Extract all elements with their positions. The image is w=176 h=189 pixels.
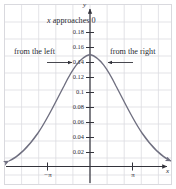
annotation-from-the-left: from the left	[14, 48, 55, 56]
y-tick-label-0.08: 0.08	[58, 104, 84, 110]
annotation-x-approaches-zero: x approaches 0	[47, 17, 96, 25]
annotation-from-the-right: from the right	[110, 48, 155, 56]
y-axis-label: y	[83, 2, 86, 9]
x-axis-label: x	[166, 168, 169, 175]
y-tick-label-0.04: 0.04	[58, 134, 84, 140]
x-tick-label-neg-pi: −π	[37, 172, 59, 179]
plot-border	[5, 5, 172, 185]
y-tick-label-0.16: 0.16	[58, 44, 84, 50]
y-tick-label-0.14: 0.14	[58, 59, 84, 65]
annotation-approaches-text: approaches 0	[51, 16, 96, 25]
y-tick-label-0.1: 0.1	[58, 89, 84, 95]
x-tick-label-pi: π	[122, 172, 144, 179]
y-tick-label-0.18: 0.18	[58, 29, 84, 35]
y-tick-label-0.12: 0.12	[58, 74, 84, 80]
y-tick-label-0.02: 0.02	[58, 149, 84, 155]
plot-canvas	[0, 0, 176, 189]
y-tick-label-0.06: 0.06	[58, 119, 84, 125]
chart-figure: x approaches 0 y x from the left from th…	[0, 0, 176, 189]
